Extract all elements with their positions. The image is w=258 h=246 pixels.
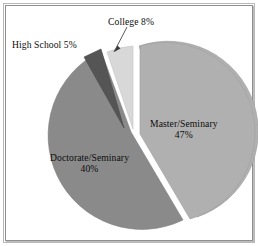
slice-label-doctorate-seminary-name: Doctorate/Seminary <box>50 152 129 163</box>
slice-label-master-seminary: Master/Seminary 47% <box>150 118 218 140</box>
pie-chart-canvas <box>0 0 258 246</box>
pie-chart-figure: College 8% High School 5% Master/Seminar… <box>0 0 258 246</box>
slice-label-doctorate-seminary-value: 40% <box>50 163 129 174</box>
slice-label-master-seminary-value: 47% <box>150 129 218 140</box>
slice-label-master-seminary-name: Master/Seminary <box>150 118 218 129</box>
slice-label-high-school: High School 5% <box>12 39 77 50</box>
slice-label-college: College 8% <box>108 16 154 27</box>
slice-label-doctorate-seminary: Doctorate/Seminary 40% <box>50 152 129 174</box>
